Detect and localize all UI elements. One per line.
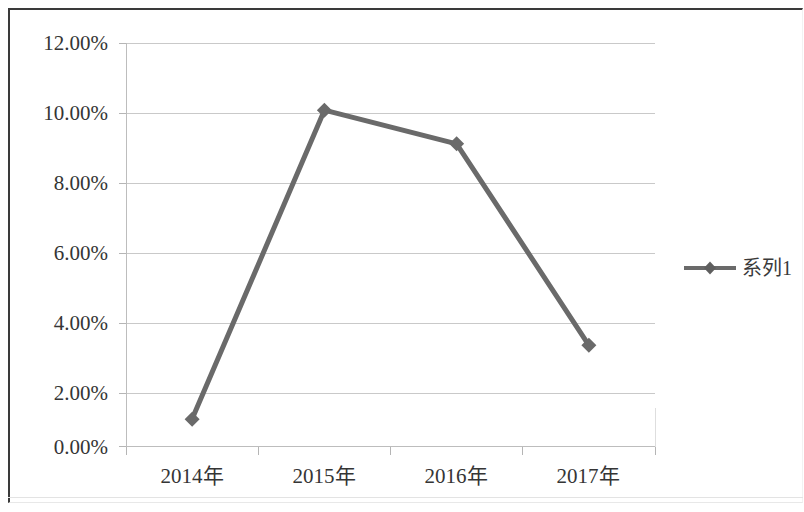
legend-label: 系列1: [742, 258, 792, 278]
series-layer: [0, 0, 804, 512]
data-point-marker: [185, 412, 200, 427]
chart-legend: 系列1: [684, 258, 792, 278]
chart-container: 12.00% 10.00% 8.00% 6.00% 4.00% 2.00% 0.…: [0, 0, 804, 512]
data-point-marker: [317, 103, 332, 118]
legend-marker-icon: [684, 260, 736, 276]
series-line-series-1: [192, 110, 589, 419]
